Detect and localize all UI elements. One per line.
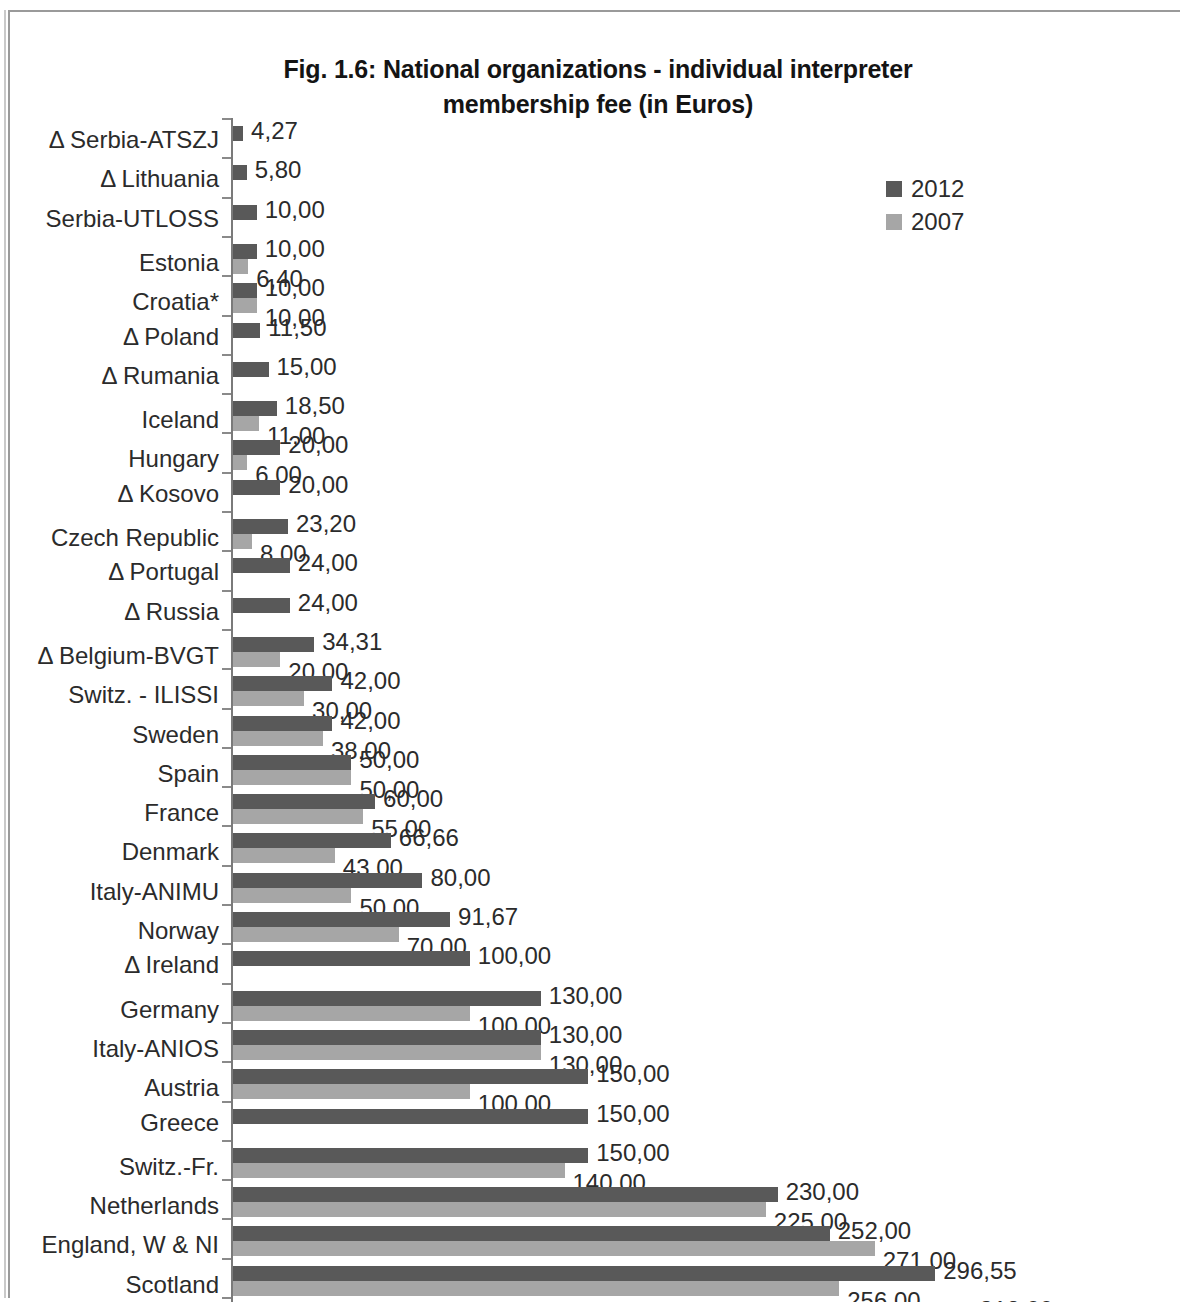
bar-value-label-2012: 296,55 [943, 1258, 1016, 1284]
chart-title-line-1: Fig. 1.6: National organizations - indiv… [284, 55, 913, 83]
bar-row: Estonia10,006,40 [0, 244, 1187, 283]
bar-2012 [233, 1148, 588, 1163]
bar-2012 [233, 676, 332, 691]
bar-row: Δ Poland11,50 [0, 323, 1187, 362]
bar-row: Czech Republic23,208,00 [0, 519, 1187, 558]
bar-row: Italy-ANIMU80,0050,00 [0, 873, 1187, 912]
bar-row: Spain50,0050,00 [0, 755, 1187, 794]
bar-value-label-2012: 10,00 [265, 197, 325, 223]
bar-2012 [233, 755, 351, 770]
category-label: Spain [0, 760, 219, 788]
category-label: Croatia* [0, 288, 219, 316]
bar-value-label-2012: 20,00 [288, 432, 348, 458]
bar-2007 [233, 691, 304, 706]
bar-2012 [233, 165, 247, 180]
bar-2012 [233, 833, 391, 848]
bar-2012 [233, 440, 280, 455]
bar-value-label-2012: 18,50 [285, 393, 345, 419]
bar-2012 [233, 1226, 830, 1241]
category-label: Δ Ireland [0, 951, 219, 979]
bar-value-label-2012: 23,20 [296, 511, 356, 537]
bar-value-label-2012: 91,67 [458, 904, 518, 930]
bar-value-label-2012: 10,00 [265, 236, 325, 262]
bar-2012 [233, 205, 257, 220]
category-label: Δ Lithuania [0, 165, 219, 193]
bar-2012 [233, 244, 257, 259]
category-label: Δ Portugal [0, 558, 219, 586]
bar-2012 [233, 598, 290, 613]
bar-value-label-2012: 150,00 [596, 1061, 669, 1087]
category-label: Switz. - ILISSI [0, 681, 219, 709]
bar-2012 [233, 323, 260, 338]
bar-value-label-2012: 312,00 [980, 1297, 1053, 1302]
bar-value-label-2012: 11,50 [268, 315, 326, 341]
category-label: England, W & NI [0, 1231, 219, 1259]
bar-2007 [233, 652, 280, 667]
bar-2012 [233, 873, 422, 888]
bar-2012 [233, 362, 269, 377]
bar-row: Switz.-Fr.150,00140,00 [0, 1148, 1187, 1187]
bar-row: Norway91,6770,00 [0, 912, 1187, 951]
bar-2012 [233, 794, 375, 809]
bar-row: Δ Serbia-ATSZJ4,27 [0, 126, 1187, 165]
bar-2007 [233, 1202, 766, 1217]
bar-row: Denmark66,6643,00 [0, 833, 1187, 872]
bar-2012 [233, 716, 332, 731]
chart-title: Fig. 1.6: National organizations - indiv… [178, 52, 1018, 122]
category-label: Germany [0, 996, 219, 1024]
bar-value-label-2012: 130,00 [549, 1022, 622, 1048]
bar-2012 [233, 1266, 935, 1281]
bar-2012 [233, 1187, 778, 1202]
bar-row: Δ Kosovo20,00 [0, 480, 1187, 519]
bar-row: Greece150,00 [0, 1109, 1187, 1148]
bar-value-label-2012: 60,00 [383, 786, 443, 812]
bar-row: Δ Russia24,00 [0, 598, 1187, 637]
bar-2012 [233, 1030, 541, 1045]
bar-2007 [233, 1281, 839, 1296]
bar-row: Austria150,00100,00 [0, 1069, 1187, 1108]
bar-2007 [233, 534, 252, 549]
bar-2007 [233, 1084, 470, 1099]
category-label: Δ Russia [0, 598, 219, 626]
bar-2012 [233, 1109, 588, 1124]
category-label: France [0, 799, 219, 827]
category-label: Denmark [0, 838, 219, 866]
bar-value-label-2012: 5,80 [255, 157, 302, 183]
category-label: Hungary [0, 445, 219, 473]
bar-2007 [233, 1163, 565, 1178]
bar-row: Δ Lithuania5,80 [0, 165, 1187, 204]
bar-row: Δ Belgium-BVGT34,3120,00 [0, 637, 1187, 676]
axis-tick [222, 118, 231, 120]
bar-row: Iceland18,5011,00 [0, 401, 1187, 440]
bar-2007 [233, 298, 257, 313]
category-label: Δ Poland [0, 323, 219, 351]
bar-2012 [233, 126, 243, 141]
bar-2012 [233, 519, 288, 534]
plot-area: Δ Serbia-ATSZJ4,27Δ Lithuania5,80Serbia-… [0, 118, 1187, 1298]
bar-2007 [233, 259, 248, 274]
chart-page: Fig. 1.6: National organizations - indiv… [0, 0, 1187, 1302]
bar-2012 [233, 912, 450, 927]
bar-value-label-2012: 150,00 [596, 1140, 669, 1166]
bar-value-label-2012: 80,00 [430, 865, 490, 891]
bar-row: Δ Rumania15,00 [0, 362, 1187, 401]
bar-value-label-2012: 100,00 [478, 943, 551, 969]
bar-value-label-2007: 256,00 [847, 1288, 920, 1302]
bar-row: Hungary20,006,00 [0, 440, 1187, 479]
bar-value-label-2012: 150,00 [596, 1101, 669, 1127]
category-label: Δ Rumania [0, 362, 219, 390]
category-label: Italy-ANIMU [0, 878, 219, 906]
bar-2012 [233, 401, 277, 416]
bar-2007 [233, 455, 247, 470]
bar-row: Sweden42,0038,00 [0, 716, 1187, 755]
bar-value-label-2012: 4,27 [251, 118, 298, 144]
bar-2012 [233, 480, 280, 495]
bar-value-label-2012: 42,00 [340, 708, 400, 734]
bar-value-label-2012: 24,00 [298, 590, 358, 616]
category-label: Norway [0, 917, 219, 945]
category-label: Italy-ANIOS [0, 1035, 219, 1063]
category-label: Iceland [0, 406, 219, 434]
category-label: Scotland [0, 1271, 219, 1299]
category-label: Netherlands [0, 1192, 219, 1220]
bar-value-label-2012: 10,00 [265, 275, 325, 301]
